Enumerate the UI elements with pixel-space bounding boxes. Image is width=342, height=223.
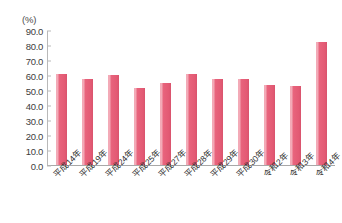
x-label-slot: 平成29年 bbox=[205, 168, 231, 216]
y-axis-tick-label: 50.0 bbox=[26, 86, 43, 97]
bar-slot bbox=[126, 31, 152, 165]
x-label-slot: 平成19年 bbox=[74, 168, 100, 216]
bar-slot bbox=[178, 31, 204, 165]
y-axis-tick-label: 20.0 bbox=[26, 131, 43, 142]
bar-slot bbox=[283, 31, 309, 165]
y-axis-unit-label: (%) bbox=[22, 14, 36, 25]
bar-slot bbox=[205, 31, 231, 165]
plot-area: 0.010.020.030.040.050.060.070.080.090.0 bbox=[47, 31, 335, 166]
x-label-slot: 平成28年 bbox=[179, 168, 205, 216]
bar-slot bbox=[48, 31, 74, 165]
x-label-slot: 令和2年 bbox=[258, 168, 284, 216]
bar bbox=[316, 42, 327, 165]
x-label-slot: 令和3年 bbox=[284, 168, 310, 216]
bar-slot bbox=[231, 31, 257, 165]
x-label-slot: 平成24年 bbox=[100, 168, 126, 216]
x-axis-labels: 平成14年平成19年平成24年平成25年平成27年平成28年平成29年平成30年… bbox=[48, 168, 336, 216]
bar bbox=[238, 79, 249, 165]
x-label-slot: 平成25年 bbox=[127, 168, 153, 216]
y-axis-tick-mark bbox=[47, 166, 51, 167]
y-axis-tick-label: 60.0 bbox=[26, 71, 43, 82]
bar bbox=[186, 74, 197, 165]
x-label-slot: 平成14年 bbox=[48, 168, 74, 216]
y-axis-tick-label: 90.0 bbox=[26, 26, 43, 37]
y-axis-tick-label: 70.0 bbox=[26, 56, 43, 67]
y-axis-tick-label: 0.0 bbox=[31, 161, 43, 172]
y-axis-tick-label: 30.0 bbox=[26, 116, 43, 127]
page-edge-strip bbox=[0, 219, 342, 223]
bar-slot bbox=[74, 31, 100, 165]
x-label-slot: 平成30年 bbox=[231, 168, 257, 216]
bar-slot bbox=[100, 31, 126, 165]
y-axis-tick-label: 10.0 bbox=[26, 146, 43, 157]
bar bbox=[290, 86, 301, 165]
bar-slot bbox=[152, 31, 178, 165]
bar bbox=[108, 75, 119, 165]
bar bbox=[56, 74, 67, 165]
x-label-slot: 平成27年 bbox=[153, 168, 179, 216]
bar-chart: (%) 0.010.020.030.040.050.060.070.080.09… bbox=[0, 0, 342, 223]
bar bbox=[82, 79, 93, 165]
bar-slot bbox=[309, 31, 335, 165]
bar-slot bbox=[257, 31, 283, 165]
y-axis-tick-label: 80.0 bbox=[26, 41, 43, 52]
bar bbox=[212, 79, 223, 165]
bar-series bbox=[48, 31, 335, 165]
y-axis-tick-label: 40.0 bbox=[26, 101, 43, 112]
x-label-slot: 令和4年 bbox=[310, 168, 336, 216]
